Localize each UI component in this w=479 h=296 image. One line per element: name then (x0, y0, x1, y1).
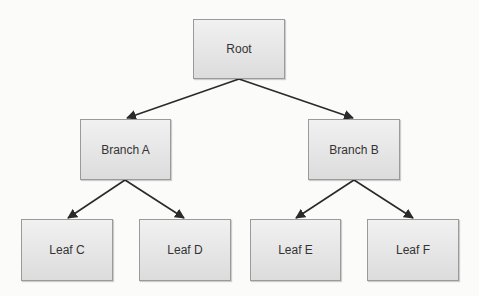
node-branch-a: Branch A (80, 119, 171, 180)
edge-branch-a-leaf-c (68, 180, 125, 218)
node-branch-b: Branch B (308, 119, 400, 180)
node-leaf-c: Leaf C (21, 219, 113, 281)
node-root: Root (193, 19, 285, 79)
node-label: Branch A (101, 143, 150, 157)
node-label: Leaf D (167, 243, 202, 257)
node-label: Leaf E (278, 243, 313, 257)
node-label: Branch B (329, 143, 378, 157)
node-label: Leaf F (396, 243, 430, 257)
node-label: Root (226, 42, 251, 56)
node-leaf-d: Leaf D (139, 219, 231, 281)
edge-branch-b-leaf-f (354, 180, 413, 218)
edge-root-branch-a (127, 79, 239, 118)
edge-root-branch-b (239, 79, 353, 118)
node-label: Leaf C (49, 243, 84, 257)
edge-branch-a-leaf-d (125, 180, 184, 218)
node-leaf-f: Leaf F (367, 219, 459, 281)
edge-branch-b-leaf-e (296, 180, 354, 218)
node-leaf-e: Leaf E (250, 219, 341, 281)
